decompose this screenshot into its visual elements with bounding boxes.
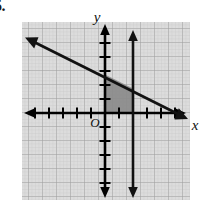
figure-root: 5. [0, 0, 206, 206]
origin-label: O [90, 115, 100, 130]
coordinate-plane-graph: y x O [0, 0, 206, 206]
x-axis-label: x [191, 117, 199, 133]
y-axis-label: y [92, 9, 101, 25]
